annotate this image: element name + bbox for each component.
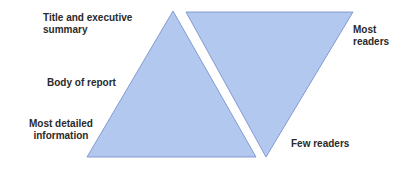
label-few-readers: Few readers xyxy=(291,138,349,150)
label-line: information xyxy=(29,130,93,142)
label-most-detailed-information: Most detailed information xyxy=(29,118,93,142)
label-line: Title and executive xyxy=(43,12,132,24)
label-most-readers: Most readers xyxy=(353,24,389,48)
label-line: Most detailed xyxy=(29,118,93,130)
report-readership-diagram: Title and executive summary Body of repo… xyxy=(0,0,413,172)
label-body-of-report: Body of report xyxy=(47,77,116,89)
label-line: summary xyxy=(43,24,132,36)
label-line: readers xyxy=(353,36,389,48)
label-line: Most xyxy=(353,24,389,36)
label-title-and-executive-summary: Title and executive summary xyxy=(43,12,132,36)
